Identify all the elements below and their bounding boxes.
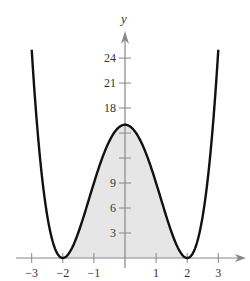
x-tick-label: −3 (25, 266, 38, 280)
y-tick-label: 21 (104, 76, 116, 90)
y-tick-label: 3 (110, 226, 116, 240)
y-tick-label: 18 (104, 101, 116, 115)
y-axis-label: y (119, 11, 127, 26)
x-tick-label: 2 (184, 266, 190, 280)
x-tick-label: 1 (153, 266, 159, 280)
y-tick-label: 6 (110, 201, 116, 215)
x-tick-label: −2 (56, 266, 69, 280)
x-tick-label: −1 (88, 266, 101, 280)
y-tick-label: 9 (110, 176, 116, 190)
y-tick-label: 24 (104, 51, 116, 65)
x-tick-label: 3 (215, 266, 221, 280)
function-graph: −3−2−1123369182124 y (0, 0, 250, 281)
